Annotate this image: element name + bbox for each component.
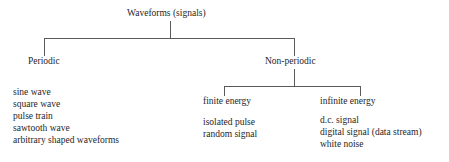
node-nonperiodic: Non-periodic [265, 56, 316, 67]
list-periodic-examples: sine wave square wave pulse train sawtoo… [13, 86, 119, 146]
list-item: d.c. signal [320, 114, 422, 126]
connector-finite-energy-drop [224, 86, 225, 96]
connector-nonperiodic-stem [294, 69, 295, 86]
connector-root-stem [170, 21, 171, 38]
list-item: isolated pulse [203, 116, 257, 128]
connector-infinite-energy-drop [360, 86, 361, 96]
list-item: pulse train [13, 110, 119, 122]
connector-nonperiodic-drop [294, 38, 295, 56]
connector-level2-bar [224, 86, 361, 87]
node-finite-energy: finite energy [203, 96, 251, 107]
root-node-waveforms: Waveforms (signals) [127, 8, 206, 19]
connector-level1-bar [44, 38, 295, 39]
node-periodic: Periodic [28, 56, 60, 67]
waveform-classification-diagram: Waveforms (signals) Periodic Non-periodi… [0, 0, 449, 162]
list-item: white noise [320, 138, 422, 150]
list-finite-energy-examples: isolated pulse random signal [203, 116, 257, 140]
list-item: random signal [203, 128, 257, 140]
list-item: sawtooth wave [13, 122, 119, 134]
list-item: sine wave [13, 86, 119, 98]
list-item: square wave [13, 98, 119, 110]
list-infinite-energy-examples: d.c. signal digital signal (data stream)… [320, 114, 422, 150]
list-item: digital signal (data stream) [320, 126, 422, 138]
node-infinite-energy: infinite energy [320, 96, 376, 107]
list-item: arbitrary shaped waveforms [13, 134, 119, 146]
connector-periodic-drop [44, 38, 45, 56]
